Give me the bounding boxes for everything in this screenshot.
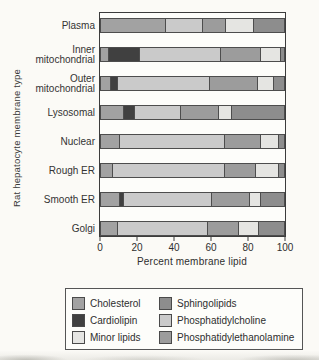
legend-label: Cardiolipin bbox=[90, 315, 137, 326]
bar-inner-mitochondrial bbox=[100, 47, 285, 62]
legend-label: Cholesterol bbox=[90, 298, 141, 309]
legend-label: Phosphatidylcholine bbox=[177, 315, 266, 326]
bar-segment-minor-lipids bbox=[238, 222, 258, 235]
bar-segment-minor-lipids bbox=[255, 164, 279, 177]
bar-nuclear bbox=[100, 134, 285, 149]
bar-golgi bbox=[100, 221, 285, 236]
bar-segment-sphingolipids bbox=[260, 193, 284, 206]
bar-segment-cardiolipin bbox=[110, 77, 117, 90]
bar-segment-minor-lipids bbox=[260, 48, 280, 61]
bar-segment-sphingolipids bbox=[253, 19, 284, 32]
x-tick-label: 0 bbox=[97, 242, 103, 253]
bar-segment-minor-lipids bbox=[249, 193, 260, 206]
legend-swatch bbox=[72, 314, 85, 327]
legend-item-phosphatidylcholine: Phosphatidylcholine bbox=[159, 314, 300, 327]
bar-segment-phosphatidylcholine bbox=[139, 48, 220, 61]
legend-swatch bbox=[72, 331, 85, 344]
bar-segment-minor-lipids bbox=[257, 77, 273, 90]
bar-segment-sphingolipids bbox=[278, 135, 283, 148]
bar-segment-minor-lipids bbox=[218, 106, 231, 119]
legend-item-phosphatidylethanolamine: Phosphatidylethanolamine bbox=[159, 331, 300, 344]
x-tick-label: 40 bbox=[168, 242, 179, 253]
bar-segment-cholesterol bbox=[101, 106, 123, 119]
legend-item-cardiolipin: Cardiolipin bbox=[72, 314, 159, 327]
bar-segment-cholesterol bbox=[101, 19, 165, 32]
x-tick bbox=[174, 237, 175, 241]
bar-segment-sphingolipids bbox=[273, 77, 284, 90]
bar-segment-phosphatidylcholine bbox=[119, 135, 223, 148]
legend-label: Sphingolipids bbox=[177, 298, 237, 309]
x-tick-label: 100 bbox=[277, 242, 294, 253]
bar-segment-phosphatidylcholine bbox=[117, 222, 207, 235]
bar-segment-cholesterol bbox=[101, 77, 110, 90]
bar-segment-minor-lipids bbox=[260, 135, 278, 148]
legend-item-sphingolipids: Sphingolipids bbox=[159, 297, 300, 310]
bar-segment-sphingolipids bbox=[258, 222, 284, 235]
x-axis-label: Percent membrane lipid bbox=[137, 256, 247, 267]
legend: CholesterolCardiolipinMinor lipidsSphing… bbox=[65, 288, 303, 350]
category-label-rough-er: Rough ER bbox=[0, 165, 95, 176]
bar-segment-cholesterol bbox=[101, 164, 112, 177]
x-tick-label: 60 bbox=[205, 242, 216, 253]
category-label-nuclear: Nuclear bbox=[0, 136, 95, 147]
category-label-lysosomal: Lysosomal bbox=[0, 107, 95, 118]
bar-smooth-er bbox=[100, 192, 285, 207]
bar-segment-sphingolipids bbox=[231, 106, 284, 119]
bar-segment-phosphatidylethanolamine bbox=[220, 48, 260, 61]
bar-segment-sphingolipids bbox=[280, 48, 284, 61]
bar-lysosomal bbox=[100, 105, 285, 120]
category-label-plasma: Plasma bbox=[0, 20, 95, 31]
legend-swatch bbox=[159, 331, 172, 344]
x-tick-label: 20 bbox=[131, 242, 142, 253]
category-label-smooth-er: Smooth ER bbox=[0, 194, 95, 205]
bar-segment-phosphatidylethanolamine bbox=[209, 77, 257, 90]
x-tick bbox=[211, 237, 212, 241]
bar-segment-cholesterol bbox=[101, 48, 108, 61]
bar-segment-phosphatidylcholine bbox=[117, 77, 209, 90]
legend-label: Phosphatidylethanolamine bbox=[177, 332, 294, 343]
bar-segment-cholesterol bbox=[101, 193, 119, 206]
category-label-outer-mitochondrial: Outermitochondrial bbox=[0, 73, 95, 94]
legend-swatch bbox=[159, 297, 172, 310]
bar-segment-phosphatidylcholine bbox=[112, 164, 224, 177]
x-tick-label: 80 bbox=[242, 242, 253, 253]
bar-segment-sphingolipids bbox=[278, 164, 283, 177]
bar-plasma bbox=[100, 18, 285, 33]
bar-segment-cholesterol bbox=[101, 222, 117, 235]
category-labels: PlasmaInnermitochondrialOutermitochondri… bbox=[0, 0, 95, 240]
legend-item-cholesterol: Cholesterol bbox=[72, 297, 159, 310]
category-label-golgi: Golgi bbox=[0, 223, 95, 234]
category-label-inner-mitochondrial: Innermitochondrial bbox=[0, 44, 95, 65]
bar-segment-phosphatidylethanolamine bbox=[211, 193, 249, 206]
bar-outer-mitochondrial bbox=[100, 76, 285, 91]
legend-swatch bbox=[72, 297, 85, 310]
x-tick bbox=[137, 237, 138, 241]
x-tick bbox=[285, 237, 286, 241]
bar-segment-cholesterol bbox=[101, 135, 119, 148]
x-tick bbox=[100, 237, 101, 241]
legend-swatch bbox=[159, 314, 172, 327]
bar-segment-cardiolipin bbox=[108, 48, 139, 61]
bar-segment-phosphatidylethanolamine bbox=[224, 135, 261, 148]
bar-segment-phosphatidylcholine bbox=[134, 106, 180, 119]
figure: Rat hepatocyte membrane type PlasmaInner… bbox=[0, 0, 319, 360]
bar-segment-cardiolipin bbox=[123, 106, 134, 119]
bar-segment-phosphatidylethanolamine bbox=[202, 19, 226, 32]
bar-segment-phosphatidylcholine bbox=[165, 19, 202, 32]
bar-segment-phosphatidylethanolamine bbox=[224, 164, 255, 177]
plot-area bbox=[99, 12, 286, 237]
bar-rough-er bbox=[100, 163, 285, 178]
bar-segment-phosphatidylethanolamine bbox=[207, 222, 238, 235]
bar-segment-phosphatidylethanolamine bbox=[180, 106, 218, 119]
x-tick bbox=[248, 237, 249, 241]
legend-item-minor-lipids: Minor lipids bbox=[72, 331, 159, 344]
bar-segment-minor-lipids bbox=[225, 19, 252, 32]
bar-segment-phosphatidylcholine bbox=[123, 193, 211, 206]
legend-label: Minor lipids bbox=[90, 332, 141, 343]
